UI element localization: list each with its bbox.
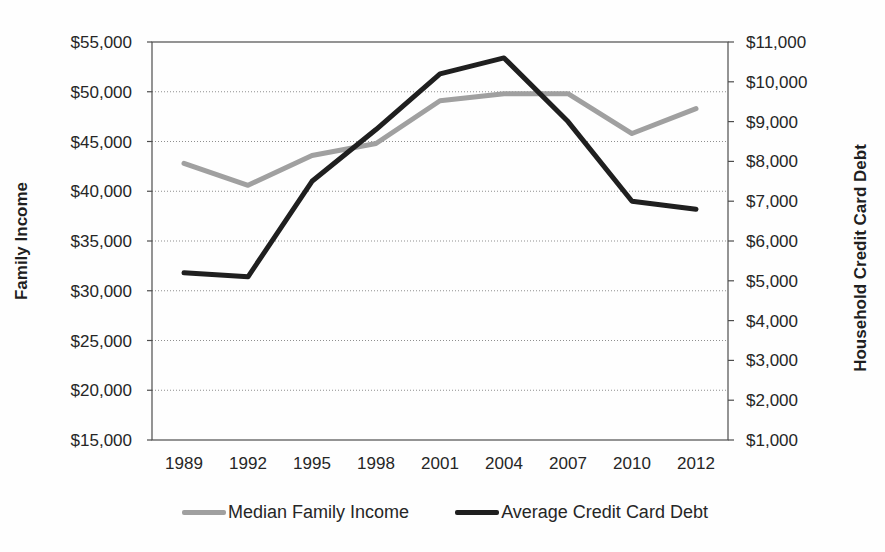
legend-label: Median Family Income xyxy=(228,502,409,523)
legend-label: Average Credit Card Debt xyxy=(501,502,708,523)
chart: $15,000$20,000$25,000$30,000$35,000$40,0… xyxy=(0,0,885,552)
median-family-income-swatch xyxy=(182,510,226,515)
svg-text:$3,000: $3,000 xyxy=(746,351,798,370)
svg-text:$55,000: $55,000 xyxy=(71,33,132,52)
svg-text:$50,000: $50,000 xyxy=(71,83,132,102)
right-axis-title: Household Credit Card Debt xyxy=(851,144,871,372)
svg-text:$30,000: $30,000 xyxy=(71,282,132,301)
svg-text:1992: 1992 xyxy=(229,454,267,473)
svg-text:$1,000: $1,000 xyxy=(746,431,798,450)
svg-text:$20,000: $20,000 xyxy=(71,381,132,400)
svg-text:$4,000: $4,000 xyxy=(746,312,798,331)
svg-text:$5,000: $5,000 xyxy=(746,272,798,291)
svg-text:1995: 1995 xyxy=(293,454,331,473)
average-credit-card-debt-swatch xyxy=(455,510,499,515)
svg-text:$40,000: $40,000 xyxy=(71,182,132,201)
svg-text:$7,000: $7,000 xyxy=(746,192,798,211)
legend: Median Family Income Average Credit Card… xyxy=(120,498,770,526)
svg-text:1998: 1998 xyxy=(357,454,395,473)
svg-text:2010: 2010 xyxy=(613,454,651,473)
svg-text:2007: 2007 xyxy=(549,454,587,473)
svg-text:$35,000: $35,000 xyxy=(71,232,132,251)
svg-text:$9,000: $9,000 xyxy=(746,113,798,132)
svg-text:$45,000: $45,000 xyxy=(71,133,132,152)
chart-canvas: $15,000$20,000$25,000$30,000$35,000$40,0… xyxy=(0,0,885,552)
left-axis-title: Family Income xyxy=(12,182,32,300)
svg-text:$11,000: $11,000 xyxy=(746,33,806,52)
legend-item-median-family-income: Median Family Income xyxy=(182,502,409,523)
svg-text:2012: 2012 xyxy=(677,454,715,473)
svg-text:2001: 2001 xyxy=(421,454,459,473)
svg-text:$25,000: $25,000 xyxy=(71,332,132,351)
svg-text:$15,000: $15,000 xyxy=(71,431,132,450)
svg-text:$6,000: $6,000 xyxy=(746,232,798,251)
svg-text:$2,000: $2,000 xyxy=(746,391,798,410)
svg-text:$8,000: $8,000 xyxy=(746,152,798,171)
svg-text:1989: 1989 xyxy=(165,454,203,473)
svg-text:$10,000: $10,000 xyxy=(746,73,807,92)
svg-text:2004: 2004 xyxy=(485,454,523,473)
legend-item-average-credit-card-debt: Average Credit Card Debt xyxy=(455,502,708,523)
